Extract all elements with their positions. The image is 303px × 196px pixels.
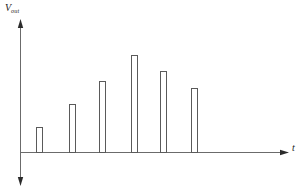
y-axis-up-arrow-icon: [18, 19, 23, 28]
y-axis-down-arrow-icon: [18, 177, 23, 186]
plot-canvas: [0, 0, 303, 196]
y-axis-label: Vout: [5, 3, 19, 13]
pulse-bar: [192, 89, 198, 153]
pulse-bar: [161, 72, 167, 153]
y-axis-subscript: out: [11, 8, 19, 14]
waveform-figure: Vout t: [0, 0, 303, 196]
pulse-bar: [37, 128, 43, 153]
pulse-bar: [132, 56, 138, 153]
pulse-bar: [70, 105, 76, 153]
x-axis-label: t: [292, 143, 295, 153]
x-axis-right-arrow-icon: [280, 150, 289, 155]
pulse-bars-group: [37, 56, 198, 153]
pulse-bar: [100, 82, 106, 153]
